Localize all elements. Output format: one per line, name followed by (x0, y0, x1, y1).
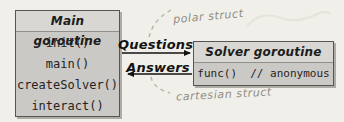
dashed-arc-top-icon (149, 10, 171, 37)
solver-goroutine-box: Solver goroutine func() // anonymous (193, 41, 334, 86)
method-main: main() (16, 58, 119, 70)
main-goroutine-body: init() main() createSolver() interact() (16, 32, 119, 117)
solver-goroutine-func: func() // anonymous (194, 63, 333, 86)
dashed-arc-bottom-icon (151, 77, 170, 93)
method-createsolver: createSolver() (16, 79, 119, 91)
goroutine-diagram: Main goroutine init() main() createSolve… (0, 0, 344, 122)
faint-pencil-smudge (247, 12, 331, 26)
main-goroutine-box: Main goroutine init() main() createSolve… (15, 10, 120, 117)
method-init: init() (16, 37, 119, 49)
questions-channel-label: Questions (118, 37, 190, 52)
answers-channel-label: Answers (124, 60, 192, 75)
solver-goroutine-title: Solver goroutine (194, 42, 333, 63)
main-goroutine-title: Main goroutine (16, 11, 119, 32)
method-interact: interact() (16, 100, 119, 112)
